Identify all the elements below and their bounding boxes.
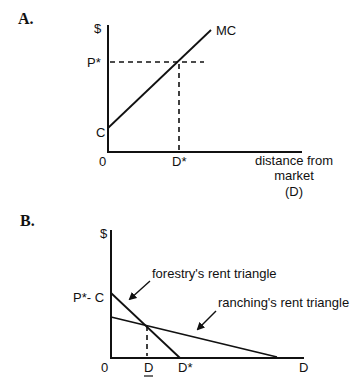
panel-a-label: A.: [18, 10, 34, 27]
mc-curve: [108, 30, 211, 128]
ranching-arrow-icon: [198, 311, 216, 329]
x-axis-label-line3: (D): [285, 184, 303, 199]
panel-b-y-axis-label: $: [100, 226, 108, 241]
forestry-arrow-icon: [130, 281, 150, 299]
panel-b-d-star-label: D*: [178, 360, 192, 375]
c-label: C: [96, 125, 105, 140]
d-star-label: D*: [172, 154, 186, 169]
panel-a: A. $ MC P* C 0 D* distance from market (…: [18, 10, 333, 199]
x-axis-label-line1: distance from: [255, 153, 333, 168]
ranching-rent-line: [111, 317, 277, 357]
p-star-label: P*: [87, 55, 101, 70]
figure: A. $ MC P* C 0 D* distance from market (…: [0, 0, 357, 391]
panel-a-y-axis-label: $: [94, 21, 102, 36]
forestry-annotation: forestry's rent triangle: [152, 266, 277, 281]
panel-b-origin: 0: [101, 360, 108, 375]
panel-b: B. $ P*- C 0 D D* D forestry's rent tria…: [20, 212, 349, 376]
mc-label: MC: [216, 23, 236, 38]
intercept-label: P*- C: [73, 290, 104, 305]
ranching-annotation: ranching's rent triangle: [218, 295, 349, 310]
panel-b-label: B.: [20, 212, 35, 229]
panel-a-origin: 0: [99, 154, 106, 169]
d-under-label: D: [144, 360, 153, 375]
x-axis-label-line2: market: [274, 168, 314, 183]
panel-b-x-axis-label: D: [299, 360, 308, 375]
